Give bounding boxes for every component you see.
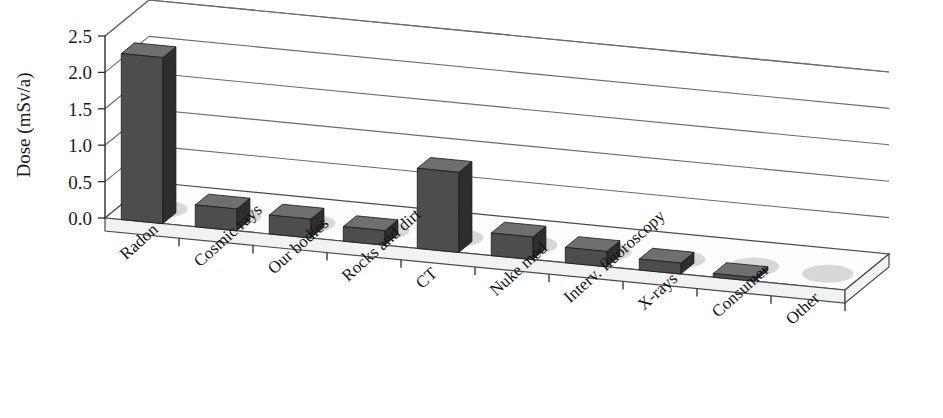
y-tick-label-2.0: 2.0 [68, 62, 92, 83]
y-axis-title: Dose (mSv/a) [13, 72, 35, 177]
gridline-1.0 [149, 109, 889, 181]
y-tick-label-2.5: 2.5 [68, 26, 92, 47]
bar-other [802, 265, 853, 283]
bar-side-face [163, 47, 176, 224]
bar-side-face [459, 162, 472, 253]
y-tick-label-1.5: 1.5 [68, 99, 92, 120]
gridline-1.5 [149, 73, 889, 145]
bar-shadow [802, 265, 853, 283]
y-axis-group [98, 36, 105, 218]
y-tick-label-0.5: 0.5 [68, 172, 92, 193]
chart-container: 0.00.51.01.52.02.5 RadonCosmic raysOur b… [0, 0, 943, 418]
y-tick-labels-group: 0.00.51.01.52.02.5 [68, 26, 92, 229]
gridlines-group [105, 0, 889, 218]
back-wall-group [105, 0, 889, 72]
back-wall-top-edge [105, 0, 889, 72]
bar-chart-3d: 0.00.51.01.52.02.5 RadonCosmic raysOur b… [0, 0, 943, 418]
bar-ct [417, 158, 483, 253]
y-tick-label-0.0: 0.0 [68, 208, 92, 229]
bar-front-face [121, 54, 162, 224]
bar-front-face [417, 168, 458, 252]
y-tick-label-1.0: 1.0 [68, 135, 92, 156]
gridline-2.0 [149, 36, 889, 108]
x-axis-label-ct: CT [412, 263, 441, 292]
